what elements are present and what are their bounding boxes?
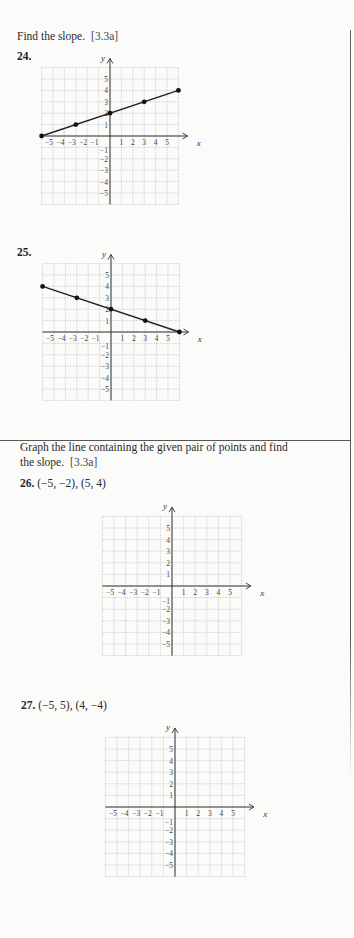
svg-text:−5: −5 bbox=[45, 138, 53, 147]
svg-text:−5: −5 bbox=[162, 640, 170, 649]
svg-text:5: 5 bbox=[166, 334, 170, 343]
svg-text:4: 4 bbox=[105, 282, 109, 291]
svg-text:−1: −1 bbox=[155, 809, 163, 818]
svg-text:−3: −3 bbox=[162, 617, 170, 626]
coordinate-grid-26: xy−5−4−3−2−11234512345−1−2−3−4−5 bbox=[102, 501, 264, 655]
svg-text:−4: −4 bbox=[121, 809, 129, 818]
svg-text:1: 1 bbox=[182, 588, 186, 597]
svg-text:2: 2 bbox=[169, 780, 173, 789]
svg-text:3: 3 bbox=[142, 138, 146, 147]
svg-text:1: 1 bbox=[105, 317, 109, 326]
svg-text:−4: −4 bbox=[118, 588, 126, 597]
svg-text:3: 3 bbox=[169, 768, 173, 777]
svg-text:3: 3 bbox=[166, 547, 170, 556]
svg-text:5: 5 bbox=[104, 75, 108, 84]
coordinate-grid-25: xy−5−4−3−2−11234512345−1−2−3−4−5 bbox=[40, 249, 201, 401]
svg-text:5: 5 bbox=[165, 138, 169, 147]
data-point bbox=[109, 307, 114, 312]
svg-text:3: 3 bbox=[143, 334, 147, 343]
svg-text:−2: −2 bbox=[141, 588, 149, 597]
data-point bbox=[74, 295, 79, 300]
data-point bbox=[142, 99, 147, 104]
coordinate-grid-24: xy−5−4−3−2−11234512345−1−2−3−4−5 bbox=[39, 53, 200, 205]
svg-text:1: 1 bbox=[185, 809, 189, 818]
data-point bbox=[176, 88, 181, 93]
svg-text:1: 1 bbox=[169, 791, 173, 800]
svg-text:1: 1 bbox=[120, 138, 124, 147]
svg-text:−2: −2 bbox=[101, 351, 109, 360]
svg-text:−4: −4 bbox=[162, 628, 170, 637]
svg-text:−4: −4 bbox=[100, 178, 108, 187]
svg-text:−1: −1 bbox=[92, 334, 100, 343]
svg-text:−3: −3 bbox=[68, 138, 76, 147]
svg-text:−5: −5 bbox=[109, 809, 117, 818]
x-axis-label: x bbox=[197, 334, 202, 344]
svg-text:5: 5 bbox=[228, 588, 232, 597]
y-axis-label: y bbox=[101, 249, 106, 259]
data-point bbox=[73, 122, 78, 127]
x-axis-label: x bbox=[196, 138, 201, 148]
svg-text:2: 2 bbox=[193, 588, 197, 597]
svg-text:−3: −3 bbox=[69, 334, 77, 343]
svg-text:4: 4 bbox=[104, 86, 108, 95]
svg-text:−4: −4 bbox=[56, 138, 64, 147]
svg-text:4: 4 bbox=[155, 334, 159, 343]
svg-text:4: 4 bbox=[154, 138, 158, 147]
x-axis-label: x bbox=[262, 809, 267, 819]
y-axis-label: y bbox=[162, 501, 167, 511]
svg-text:−5: −5 bbox=[101, 385, 109, 394]
graph-24: xy−5−4−3−2−11234512345−1−2−3−4−5xy−5−4−3… bbox=[0, 0, 354, 938]
data-point bbox=[108, 111, 113, 116]
svg-text:3: 3 bbox=[205, 588, 209, 597]
svg-text:−3: −3 bbox=[165, 838, 173, 847]
svg-text:−5: −5 bbox=[46, 334, 54, 343]
y-axis-label: y bbox=[100, 53, 105, 63]
svg-text:−2: −2 bbox=[80, 334, 88, 343]
svg-text:−3: −3 bbox=[100, 166, 108, 175]
svg-text:−3: −3 bbox=[129, 588, 137, 597]
svg-text:−4: −4 bbox=[57, 334, 65, 343]
data-point bbox=[40, 284, 45, 289]
svg-text:−3: −3 bbox=[132, 809, 140, 818]
svg-text:3: 3 bbox=[208, 809, 212, 818]
svg-text:−2: −2 bbox=[162, 605, 170, 614]
svg-text:3: 3 bbox=[104, 98, 108, 107]
svg-text:2: 2 bbox=[166, 559, 170, 568]
svg-text:4: 4 bbox=[166, 536, 170, 545]
svg-text:1: 1 bbox=[121, 334, 125, 343]
svg-text:5: 5 bbox=[169, 745, 173, 754]
svg-text:2: 2 bbox=[196, 809, 200, 818]
data-point bbox=[143, 318, 148, 323]
data-point bbox=[177, 330, 182, 335]
svg-text:−5: −5 bbox=[106, 588, 114, 597]
svg-text:2: 2 bbox=[131, 138, 135, 147]
svg-text:5: 5 bbox=[105, 271, 109, 280]
svg-text:−2: −2 bbox=[100, 155, 108, 164]
svg-text:4: 4 bbox=[169, 757, 173, 766]
svg-text:4: 4 bbox=[217, 588, 221, 597]
svg-text:−3: −3 bbox=[101, 362, 109, 371]
svg-text:−1: −1 bbox=[152, 588, 160, 597]
svg-text:−1: −1 bbox=[91, 138, 99, 147]
svg-text:5: 5 bbox=[166, 524, 170, 533]
y-axis-label: y bbox=[165, 722, 170, 732]
svg-text:5: 5 bbox=[231, 809, 235, 818]
svg-text:−4: −4 bbox=[165, 849, 173, 858]
x-axis-label: x bbox=[259, 588, 264, 598]
data-point bbox=[39, 134, 44, 139]
svg-text:1: 1 bbox=[104, 121, 108, 130]
svg-text:2: 2 bbox=[105, 305, 109, 314]
svg-text:−4: −4 bbox=[101, 374, 109, 383]
svg-text:1: 1 bbox=[166, 570, 170, 579]
svg-text:3: 3 bbox=[105, 294, 109, 303]
svg-text:−5: −5 bbox=[100, 189, 108, 198]
svg-text:−5: −5 bbox=[165, 861, 173, 870]
svg-text:2: 2 bbox=[132, 334, 136, 343]
svg-text:4: 4 bbox=[220, 809, 224, 818]
coordinate-grid-27: xy−5−4−3−2−11234512345−1−2−3−4−5 bbox=[105, 722, 267, 876]
svg-text:−2: −2 bbox=[165, 826, 173, 835]
svg-text:−2: −2 bbox=[144, 809, 152, 818]
svg-text:−2: −2 bbox=[79, 138, 87, 147]
